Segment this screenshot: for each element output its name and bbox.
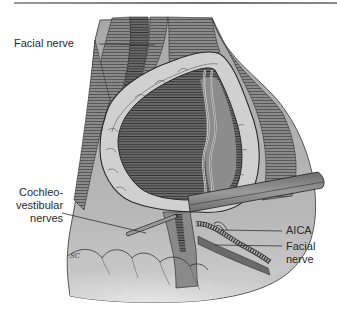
label-text: Cochleo-	[16, 186, 63, 199]
label-facial-nerve-top: Facial nerve	[14, 37, 74, 50]
label-text: Facial	[286, 240, 315, 253]
label-text: vestibular	[16, 199, 63, 212]
label-text: AICA	[286, 224, 312, 237]
label-text: nerves	[16, 212, 63, 225]
label-cochleovestibular-nerves: Cochleo- vestibular nerves	[16, 186, 63, 225]
anatomical-figure: SC Facial nerve Cochleo- vestibular nerv…	[0, 0, 337, 309]
label-facial-nerve-bottom: Facial nerve	[286, 240, 315, 266]
label-text: nerve	[286, 253, 315, 266]
artist-signature: SC	[70, 252, 81, 260]
label-text: Facial nerve	[14, 37, 74, 50]
label-aica: AICA	[286, 224, 312, 237]
